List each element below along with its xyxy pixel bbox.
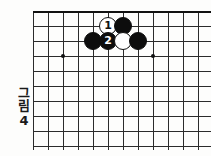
grid-line-vertical bbox=[33, 11, 34, 150]
caption-char-1: 그 bbox=[18, 86, 30, 99]
grid-line-horizontal bbox=[33, 146, 211, 147]
grid-line-horizontal bbox=[33, 56, 211, 57]
grid-line-horizontal bbox=[33, 11, 211, 13]
black-stone-d bbox=[129, 32, 147, 50]
grid-line-vertical bbox=[153, 11, 154, 150]
grid-line-vertical bbox=[78, 11, 79, 150]
grid-line-horizontal bbox=[33, 116, 211, 117]
grid-line-horizontal bbox=[33, 131, 211, 132]
grid-line-vertical bbox=[48, 11, 49, 150]
stone-move-number: 2 bbox=[104, 35, 112, 46]
grid-line-horizontal bbox=[33, 71, 211, 72]
grid-line-vertical bbox=[183, 11, 184, 150]
go-board: 12 bbox=[33, 11, 211, 150]
stone-move-number: 1 bbox=[104, 20, 112, 31]
star-point bbox=[151, 54, 155, 58]
grid-line-vertical bbox=[198, 11, 199, 150]
grid-line-vertical bbox=[63, 11, 64, 150]
caption-number: 4 bbox=[19, 114, 28, 127]
figure-caption: 그 림 4 bbox=[14, 86, 34, 127]
grid-line-horizontal bbox=[33, 101, 211, 102]
grid-line-vertical bbox=[168, 11, 169, 150]
grid-line-horizontal bbox=[33, 86, 211, 87]
caption-char-2: 림 bbox=[18, 99, 30, 112]
figure-container: 그 림 4 12 bbox=[0, 0, 211, 156]
star-point bbox=[61, 54, 65, 58]
